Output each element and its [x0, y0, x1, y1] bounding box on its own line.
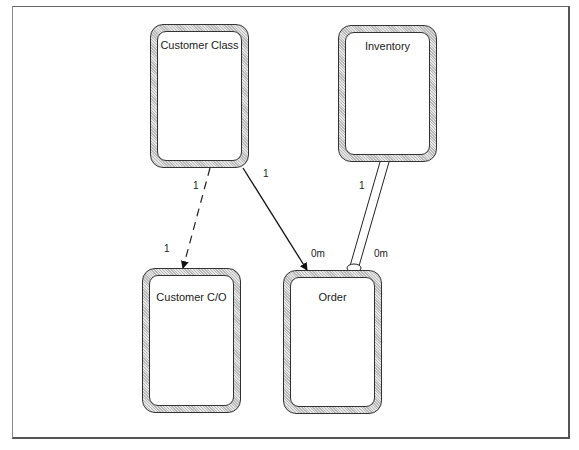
multiplicity-label: 1 [164, 243, 170, 254]
class-title: Customer Class [151, 39, 248, 51]
class-title: Order [284, 291, 381, 303]
class-box-order[interactable]: Order [283, 270, 382, 414]
class-box-inventory[interactable]: Inventory [338, 25, 437, 162]
class-box-customer-class[interactable]: Customer Class [150, 24, 249, 168]
multiplicity-label: 1 [193, 180, 199, 191]
multiplicity-label: 0m [374, 248, 388, 259]
class-title: Inventory [339, 40, 436, 52]
multiplicity-label: 1 [359, 180, 365, 191]
multiplicity-label: 0m [311, 248, 325, 259]
diagram-canvas: Customer Class Inventory Customer C/O Or… [0, 0, 579, 450]
association-arrow-line [243, 168, 307, 270]
class-title: Customer C/O [143, 291, 240, 303]
class-box-customer-co[interactable]: Customer C/O [142, 268, 241, 413]
multiplicity-label: 1 [263, 168, 269, 179]
